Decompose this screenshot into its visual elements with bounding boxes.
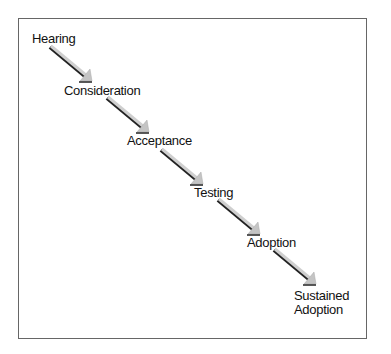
arrow-icon bbox=[218, 199, 260, 235]
stage-consideration: Consideration bbox=[64, 84, 140, 98]
stage-sustained-adoption-line2: Adoption bbox=[294, 303, 343, 317]
stage-adoption: Adoption bbox=[247, 236, 296, 250]
arrow-icon bbox=[161, 149, 203, 185]
stage-testing: Testing bbox=[194, 186, 233, 200]
stage-hearing: Hearing bbox=[32, 32, 75, 46]
stage-acceptance: Acceptance bbox=[127, 134, 192, 148]
stage-sustained-adoption-line1: Sustained bbox=[294, 289, 349, 303]
arrow-icon bbox=[50, 46, 92, 82]
arrow-icon bbox=[107, 97, 149, 133]
arrow-icon bbox=[274, 249, 316, 285]
